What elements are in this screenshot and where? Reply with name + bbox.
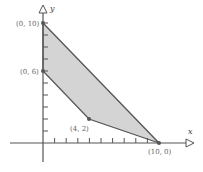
x-axis-label: x xyxy=(188,127,193,136)
feasible-region-graph: y x (0, 10) (0, 6) (4, 2) (10, 0) xyxy=(0,0,203,172)
point-10-0 xyxy=(157,141,161,145)
point-4-2 xyxy=(87,117,91,121)
point-label-0-6: (0, 6) xyxy=(20,68,39,76)
point-label-0-10: (0, 10) xyxy=(16,20,40,28)
point-label-4-2: (4, 2) xyxy=(70,125,89,133)
point-0-6 xyxy=(41,69,45,73)
x-axis-arrow-icon xyxy=(186,139,194,147)
feasible-region xyxy=(43,23,159,143)
y-axis-label: y xyxy=(49,4,55,13)
x-ticks xyxy=(55,138,148,143)
point-label-10-0: (10, 0) xyxy=(148,148,172,156)
y-axis-arrow-icon xyxy=(39,5,47,13)
point-0-10 xyxy=(41,21,45,25)
